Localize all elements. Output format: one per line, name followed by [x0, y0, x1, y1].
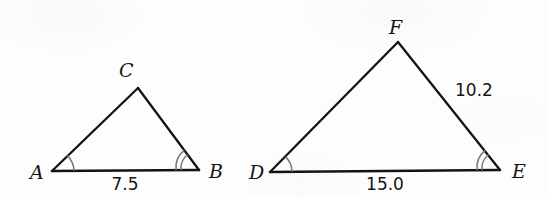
vertex-label-d: D	[248, 161, 264, 183]
figure-canvas: A C B 7.5 D F	[0, 0, 548, 197]
vertex-label-f: F	[388, 16, 403, 38]
angle-mark-d	[286, 157, 292, 172]
side-length-de: 15.0	[366, 174, 404, 194]
side-length-ab: 7.5	[111, 174, 138, 194]
triangle-abc: A C B 7.5	[28, 59, 223, 194]
triangle-def: D F E 15.0 10.2	[248, 16, 526, 194]
vertex-label-e: E	[511, 160, 526, 182]
geometry-figure: A C B 7.5 D F	[0, 0, 548, 197]
triangle-def-side-df	[270, 42, 398, 172]
side-length-fe: 10.2	[455, 80, 493, 100]
vertex-label-b: B	[208, 160, 223, 182]
vertex-label-c: C	[119, 59, 134, 81]
triangle-def-side-de	[270, 170, 500, 172]
triangle-abc-side-cb	[138, 88, 199, 170]
vertex-label-a: A	[28, 161, 44, 183]
triangle-abc-side-ac	[52, 88, 138, 171]
angle-mark-a	[67, 156, 74, 171]
